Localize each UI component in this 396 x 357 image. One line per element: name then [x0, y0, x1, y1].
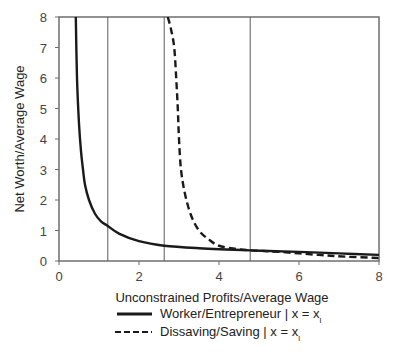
y-tick-label: 1 [40, 224, 47, 239]
y-axis-label: Net Worth/Average Wage [12, 65, 27, 212]
x-tick-label: 0 [55, 269, 62, 284]
y-tick-label: 2 [40, 193, 47, 208]
x-tick-label: 6 [295, 269, 302, 284]
series-lines [76, 17, 379, 258]
legend-label: Dissaving/Saving | x = xl [160, 324, 300, 343]
y-tick-label: 3 [40, 163, 47, 178]
x-axis-ticks: 02468 [55, 261, 382, 284]
y-tick-label: 8 [40, 10, 47, 25]
x-tick-label: 8 [375, 269, 382, 284]
y-tick-label: 4 [40, 132, 47, 147]
y-axis-ticks: 012345678 [40, 10, 59, 269]
legend-label: Worker/Entrepreneur | x = xl [160, 306, 322, 325]
x-tick-label: 2 [135, 269, 142, 284]
dissaving-saving-line [168, 17, 379, 258]
y-tick-label: 7 [40, 41, 47, 56]
y-tick-label: 5 [40, 102, 47, 117]
x-tick-label: 4 [215, 269, 222, 284]
chart: 012345678 02468 Net Worth/Average Wage U… [0, 0, 396, 357]
y-tick-label: 0 [40, 254, 47, 269]
y-tick-label: 6 [40, 71, 47, 86]
legend: Worker/Entrepreneur | x = xlDissaving/Sa… [115, 306, 322, 343]
x-axis-label: Unconstrained Profits/Average Wage [115, 290, 328, 305]
worker-entrepreneur-line [76, 17, 379, 255]
